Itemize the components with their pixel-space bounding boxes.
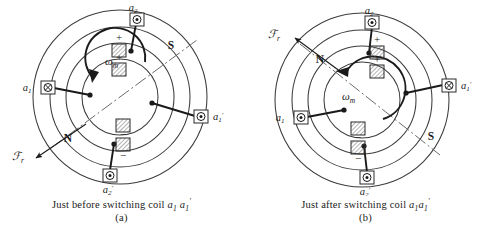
junction-dot-right: [403, 90, 408, 95]
conductor-sign-2: +: [374, 53, 380, 65]
stator-outer-circle: [275, 13, 449, 187]
caption-a-coil1: a1: [168, 199, 177, 210]
omega-arrowhead: [89, 69, 99, 83]
conductor-sign-4: −: [120, 149, 126, 161]
conductor-sign-1: +: [374, 33, 380, 45]
conductor-slot-inner-top: [370, 65, 384, 78]
mmf-label: ℱr: [268, 27, 280, 43]
junction-dot-right: [149, 100, 154, 105]
terminal-a2-prime-b: [360, 171, 374, 184]
caption-b-coils: a1a1′: [409, 199, 430, 210]
conductor-sign-1: +: [116, 31, 122, 43]
pole-label-north: N: [316, 53, 325, 65]
pole-label-south: S: [168, 39, 174, 51]
terminal-label-a1: a1: [276, 112, 285, 125]
pole-label-south: S: [428, 130, 434, 142]
lead-a1-prime: [406, 85, 443, 93]
caption-a-text: Just before switching coil: [52, 199, 165, 210]
terminal-a1-prime-b: [442, 79, 456, 92]
terminal-label-a1-prime: a1′: [461, 80, 472, 93]
junction-dot-top: [128, 48, 133, 53]
mmf-label: ℱr: [12, 149, 24, 165]
terminal-a1-prime-a: [194, 110, 208, 123]
pole-label-north: N: [64, 132, 73, 144]
conductor-sign-3: −: [120, 128, 126, 140]
machine-diagram-a: + + − − S N ωm ℱr a2 a1 a1′: [0, 0, 243, 196]
terminal-a2-prime-a: [103, 169, 117, 182]
terminal-label-a1: a1: [23, 82, 32, 95]
terminal-a1-b: [294, 111, 308, 124]
junction-dot-left: [341, 107, 346, 112]
lead-a1: [54, 88, 90, 95]
terminal-label-a2-prime: a2′: [103, 184, 114, 196]
stator-rings-b: [275, 13, 449, 187]
caption-b-text: Just after switching coil: [301, 199, 406, 210]
caption-tag-a: (a): [0, 212, 243, 223]
caption-a-coil2: a1′: [180, 199, 191, 210]
figure-pane-b: + + − − N S ωm ℱr a2 a1 a1′ a2′: [244, 0, 487, 236]
terminal-label-a1-prime: a1′: [213, 111, 224, 124]
caption-b: Just after switching coil a1a1′: [244, 196, 487, 213]
terminal-label-a2-prime: a2′: [360, 186, 371, 196]
conductor-sign-4: −: [355, 152, 361, 164]
junction-dot-left: [87, 92, 92, 97]
terminal-a1-a: [41, 81, 55, 94]
figure-page: + + − − S N ωm ℱr a2 a1 a1′: [0, 0, 487, 236]
omega-arrowhead: [336, 67, 349, 77]
omega-label: ωm: [342, 90, 356, 105]
conductor-sign-3: −: [355, 131, 361, 143]
machine-diagram-b: + + − − N S ωm ℱr a2 a1 a1′ a2′: [244, 0, 487, 196]
caption-a: Just before switching coil a1 a1′: [0, 196, 243, 213]
caption-tag-b: (b): [244, 212, 487, 223]
figure-pane-a: + + − − S N ωm ℱr a2 a1 a1′: [0, 0, 243, 236]
